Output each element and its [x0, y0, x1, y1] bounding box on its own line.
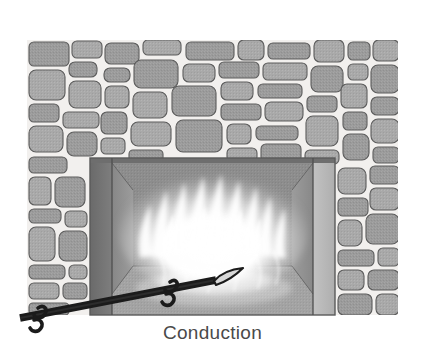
- fireplace-opening: [90, 158, 335, 315]
- fireplace-left-jamb: [90, 158, 112, 315]
- figure-caption: Conduction: [0, 322, 425, 344]
- fireplace-lintel: [90, 158, 335, 163]
- fireplace-illustration: [0, 0, 425, 359]
- conduction-figure: Conduction: [0, 0, 425, 359]
- flames: [118, 170, 308, 306]
- fireplace-right-jamb: [313, 158, 335, 315]
